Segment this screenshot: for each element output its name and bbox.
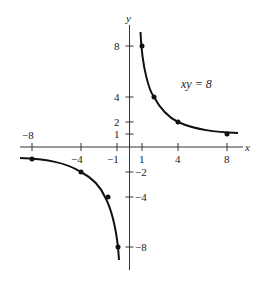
x-tick-label: 4 [175, 153, 181, 165]
y-tick-label: 2 [114, 116, 120, 128]
y-tick-label: −8 [135, 241, 147, 253]
y-tick-label: −4 [135, 191, 147, 203]
y-tick-label: 4 [114, 91, 120, 103]
y-tick-label: −2 [135, 166, 147, 178]
x-tick-label: −8 [22, 129, 34, 141]
x-axis-label: x [244, 141, 250, 153]
y-axis-label: y [125, 12, 131, 24]
y-tick-label: 8 [114, 40, 120, 52]
x-tick-label: 8 [224, 153, 230, 165]
x-tick-label: −4 [71, 153, 83, 165]
y-tick-label: 1 [114, 128, 120, 140]
equation-label: xy = 8 [180, 77, 212, 91]
x-tick-label: 1 [139, 153, 145, 165]
hyperbola-branch-q3 [20, 158, 119, 260]
x-tick-label: −1 [107, 153, 119, 165]
hyperbola-graph: x y −8 −4 −1 1 4 8 8 4 2 1 −2 −4 −8 [0, 0, 269, 283]
